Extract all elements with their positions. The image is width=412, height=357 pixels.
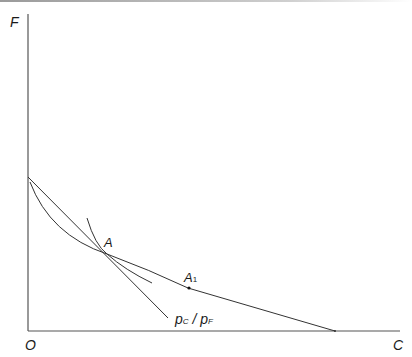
point-a1-marker: [187, 286, 190, 289]
y-axis-label: F: [10, 15, 19, 29]
point-a1-subscript: 1: [193, 275, 197, 284]
diagram-canvas: [0, 0, 412, 357]
origin-label: O: [25, 338, 36, 352]
pc-letter: p: [175, 311, 183, 327]
pf-letter: p: [200, 311, 208, 327]
price-ratio-label: pC / pF: [175, 312, 213, 326]
point-a-label: A: [104, 236, 113, 249]
point-a1-label: A1: [184, 271, 197, 284]
intercept-marker: [334, 330, 336, 332]
slash: /: [189, 311, 201, 327]
x-axis-label: C: [393, 338, 403, 352]
pf-subscript: F: [208, 317, 213, 326]
price-ratio-line: [28, 177, 168, 318]
budget-curve: [30, 182, 335, 331]
point-a1-letter: A: [184, 270, 193, 285]
